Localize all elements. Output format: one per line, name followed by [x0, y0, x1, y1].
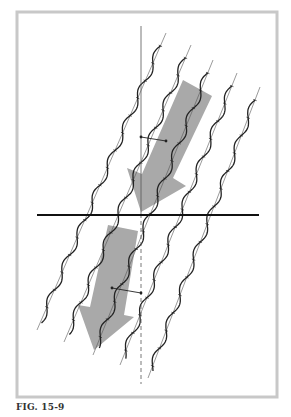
figure-caption: FIG. 15-9 [16, 402, 65, 412]
fiber [93, 60, 213, 355]
figure-diagram [0, 0, 291, 417]
upper-arrow [127, 80, 212, 212]
